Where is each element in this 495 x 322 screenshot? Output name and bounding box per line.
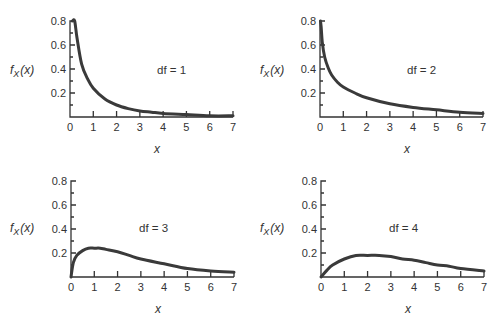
x-tick-label: 7 — [480, 121, 486, 133]
x-axis-title: x — [153, 142, 161, 156]
x-axis-title: x — [154, 302, 162, 316]
x-tick-label: 4 — [161, 281, 167, 293]
x-tick-label: 7 — [230, 121, 236, 133]
x-tick-label: 4 — [411, 281, 417, 293]
x-tick-label: 6 — [458, 281, 464, 293]
tick-marks — [321, 193, 484, 277]
x-tick-label: 2 — [364, 121, 370, 133]
x-tick-label: 2 — [114, 121, 120, 133]
y-tick-label: 0.4 — [302, 223, 317, 235]
x-tick-labels: 01234567 — [318, 281, 487, 293]
axis-ticks — [71, 193, 234, 277]
y-axis-title: fX(x) — [10, 221, 34, 237]
x-tick-label: 5 — [184, 281, 190, 293]
x-tick-label: 3 — [387, 121, 393, 133]
x-tick-label: 6 — [207, 121, 213, 133]
x-tick-label: 4 — [410, 121, 416, 133]
y-tick-label: 0.4 — [301, 63, 316, 75]
x-tick-label: 1 — [340, 121, 346, 133]
x-tick-label: 2 — [115, 281, 121, 293]
axes — [320, 21, 483, 117]
axes — [70, 21, 233, 117]
y-tick-label: 0.8 — [51, 15, 66, 27]
tick-marks — [71, 193, 234, 277]
df-label: df = 2 — [407, 64, 436, 76]
axis-ticks — [321, 193, 484, 277]
x-tick-label: 3 — [138, 281, 144, 293]
y-tick-label: 0.8 — [302, 175, 317, 187]
y-tick-labels: 0.20.40.60.8 — [301, 15, 316, 99]
x-tick-label: 7 — [481, 281, 487, 293]
y-axis-title: fX(x) — [10, 63, 34, 79]
y-tick-label: 0.8 — [301, 15, 316, 27]
density-curve — [321, 255, 484, 277]
panel-df-4: 0.20.40.60.8 01234567 df = 4 x fX(x) — [260, 175, 487, 316]
y-tick-label: 0.4 — [52, 223, 67, 235]
y-tick-label: 0.2 — [302, 247, 317, 259]
x-tick-label: 2 — [365, 281, 371, 293]
y-axis-title: fX(x) — [260, 221, 284, 237]
panel-df-3: 0.20.40.60.8 01234567 df = 3 x fX(x) — [10, 175, 237, 316]
x-tick-labels: 01234567 — [317, 121, 486, 133]
x-tick-labels: 01234567 — [68, 281, 237, 293]
x-tick-label: 0 — [67, 121, 73, 133]
df-label: df = 3 — [139, 222, 168, 234]
y-tick-label: 0.4 — [51, 63, 66, 75]
panel-df-2: 0.20.40.60.8 01234567 df = 2 x fX(x) — [260, 15, 486, 156]
density-curve — [320, 21, 483, 113]
y-tick-label: 0.6 — [51, 39, 66, 51]
y-tick-label: 0.6 — [301, 39, 316, 51]
x-tick-label: 1 — [90, 121, 96, 133]
y-tick-labels: 0.20.40.60.8 — [302, 175, 317, 259]
x-tick-label: 1 — [341, 281, 347, 293]
y-tick-labels: 0.20.40.60.8 — [51, 15, 66, 99]
x-tick-label: 0 — [317, 121, 323, 133]
x-axis-title: x — [404, 302, 412, 316]
y-axis-title: fX(x) — [260, 63, 284, 79]
chi-square-figure: 0.20.40.60.8 01234567 df = 1 x fX(x) 0.2… — [0, 0, 495, 322]
x-tick-label: 5 — [433, 121, 439, 133]
x-tick-label: 0 — [318, 281, 324, 293]
x-tick-label: 7 — [231, 281, 237, 293]
tick-marks — [70, 33, 233, 117]
y-tick-label: 0.2 — [301, 87, 316, 99]
x-tick-label: 5 — [183, 121, 189, 133]
x-tick-label: 4 — [160, 121, 166, 133]
x-tick-label: 5 — [434, 281, 440, 293]
y-tick-label: 0.6 — [302, 199, 317, 211]
density-curve — [72, 20, 233, 116]
panel-df-1: 0.20.40.60.8 01234567 df = 1 x fX(x) — [10, 15, 236, 156]
y-tick-label: 0.2 — [52, 247, 67, 259]
density-curve — [71, 248, 234, 277]
df-label: df = 1 — [157, 64, 186, 76]
df-label: df = 4 — [389, 222, 419, 234]
x-tick-label: 3 — [388, 281, 394, 293]
y-tick-label: 0.2 — [51, 87, 66, 99]
x-tick-label: 6 — [457, 121, 463, 133]
x-tick-label: 0 — [68, 281, 74, 293]
x-axis-title: x — [403, 142, 411, 156]
x-tick-label: 6 — [208, 281, 214, 293]
y-tick-label: 0.6 — [52, 199, 67, 211]
x-tick-label: 3 — [137, 121, 143, 133]
x-tick-label: 1 — [91, 281, 97, 293]
y-tick-labels: 0.20.40.60.8 — [52, 175, 67, 259]
axis-ticks — [70, 33, 233, 117]
x-tick-labels: 01234567 — [67, 121, 236, 133]
y-tick-label: 0.8 — [52, 175, 67, 187]
